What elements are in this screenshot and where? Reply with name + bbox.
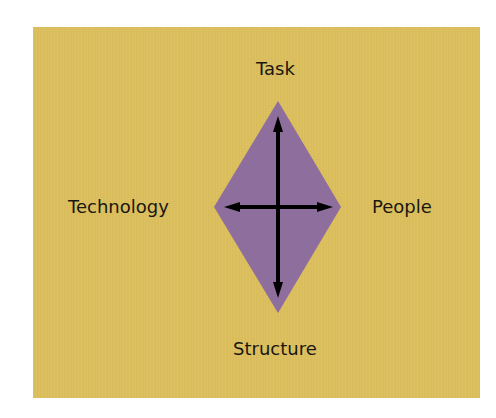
- label-task: Task: [256, 60, 295, 78]
- label-people: People: [372, 198, 432, 216]
- label-technology: Technology: [68, 198, 169, 216]
- label-structure: Structure: [233, 340, 317, 358]
